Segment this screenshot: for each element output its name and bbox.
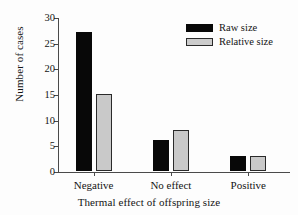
x-category-label-positive: Positive bbox=[231, 178, 266, 192]
legend-swatch-raw-size-icon bbox=[186, 24, 213, 32]
y-tick-label: 15 bbox=[45, 88, 56, 101]
y-tick-label: 25 bbox=[45, 37, 56, 50]
x-axis-title: Thermal effect of offspring size bbox=[0, 196, 298, 208]
y-axis-line bbox=[58, 18, 59, 173]
legend-swatch-relative-size-icon bbox=[186, 38, 213, 46]
y-tick-label: 30 bbox=[45, 11, 56, 24]
y-tick-label: 5 bbox=[50, 139, 55, 152]
bar-no-effect-relative-size bbox=[173, 130, 189, 171]
bar-chart: Number of cases 051015202530 NegativeNo … bbox=[0, 0, 298, 215]
bar-positive-raw-size bbox=[230, 156, 246, 171]
bar-negative-raw-size bbox=[76, 32, 92, 171]
x-tick-negative bbox=[94, 172, 95, 176]
y-axis-title: Number of cases bbox=[13, 4, 25, 124]
y-tick-label: 0 bbox=[50, 165, 55, 178]
legend-label-raw-size: Raw size bbox=[219, 22, 257, 33]
x-tick-positive bbox=[248, 172, 249, 176]
legend-item-relative-size: Relative size bbox=[186, 36, 273, 47]
y-tick-label: 20 bbox=[45, 62, 56, 75]
chart-legend: Raw size Relative size bbox=[186, 22, 273, 50]
bar-positive-relative-size bbox=[250, 156, 266, 171]
bar-negative-relative-size bbox=[96, 94, 112, 171]
bar-no-effect-raw-size bbox=[153, 140, 169, 171]
y-tick-label: 10 bbox=[45, 114, 56, 127]
x-category-label-negative: Negative bbox=[74, 178, 114, 192]
x-tick-no-effect bbox=[171, 172, 172, 176]
legend-label-relative-size: Relative size bbox=[219, 36, 273, 47]
x-category-label-no-effect: No effect bbox=[150, 178, 191, 192]
legend-item-raw-size: Raw size bbox=[186, 22, 273, 33]
